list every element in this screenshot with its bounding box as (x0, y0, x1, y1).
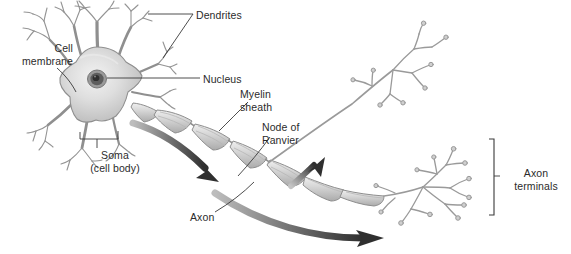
myelin-segment (303, 177, 344, 201)
label-dendrites: Dendrites (196, 9, 242, 22)
label-axon: Axon (190, 211, 214, 224)
neuron-diagram: Dendrites Cell membrane Nucleus Myelin s… (0, 0, 571, 254)
label-nucleus: Nucleus (203, 73, 242, 86)
myelin-segment (154, 110, 192, 133)
label-axon-terminals: Axon terminals (503, 167, 569, 193)
myelin-segment (267, 160, 306, 186)
label-cell-membrane: Cell membrane (0, 42, 73, 68)
myelin-segment (340, 190, 384, 206)
myelin-segment (192, 124, 230, 150)
signal-arrow-group (133, 123, 384, 247)
label-myelin-sheath: Myelin sheath (240, 88, 272, 114)
axon-terminal-cluster-upper (351, 21, 448, 107)
nucleus (88, 70, 107, 88)
axon-terminal-cluster-lower (374, 147, 471, 226)
label-node-of-ranvier: Node of Ranvier (262, 121, 299, 147)
leader-dendrites-diagonal (163, 14, 193, 58)
label-soma: Soma (cell body) (68, 149, 162, 175)
axon-terminals-bracket (489, 139, 494, 215)
nucleolus (93, 75, 100, 81)
axon-with-myelin (131, 103, 384, 206)
